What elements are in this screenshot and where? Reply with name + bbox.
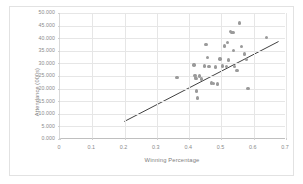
trendline-segment <box>124 42 278 122</box>
gridline-horizontal <box>60 126 285 127</box>
y-tick-mark <box>58 38 60 39</box>
x-tick-mark <box>189 138 190 140</box>
gridline-vertical <box>254 13 255 138</box>
gridline-horizontal <box>60 51 285 52</box>
data-point <box>214 65 217 68</box>
y-tick-mark <box>58 89 60 90</box>
gridline-horizontal <box>60 26 285 27</box>
y-tick-label: 5.000 <box>15 124 55 129</box>
y-tick-label: 20.000 <box>15 86 55 91</box>
gridline-horizontal <box>60 101 285 102</box>
data-point <box>227 58 230 61</box>
x-tick-label: 0 <box>44 145 74 150</box>
y-tick-mark <box>58 26 60 27</box>
gridline-vertical <box>125 13 126 138</box>
gridline-vertical <box>157 13 158 138</box>
data-point <box>238 21 241 24</box>
gridline-horizontal <box>60 38 285 39</box>
x-tick-label: 0.5 <box>205 145 235 150</box>
data-point <box>223 44 226 47</box>
gridline-horizontal <box>60 76 285 77</box>
x-tick-mark <box>60 138 61 140</box>
gridline-horizontal <box>60 114 285 115</box>
data-point <box>216 82 219 85</box>
gridline-vertical <box>189 13 190 138</box>
x-tick-mark <box>286 138 287 140</box>
gridline-horizontal <box>60 13 285 14</box>
data-point <box>221 64 224 67</box>
y-tick-mark <box>58 51 60 52</box>
data-point <box>235 69 238 72</box>
x-tick-label: 0.6 <box>238 145 268 150</box>
y-tick-mark <box>58 13 60 14</box>
plot-area <box>59 13 285 139</box>
gridline-horizontal <box>60 89 285 90</box>
gridline-horizontal <box>60 63 285 64</box>
y-tick-label: 10.000 <box>15 111 55 116</box>
y-tick-mark <box>58 63 60 64</box>
data-point <box>243 52 246 55</box>
y-tick-label: 45.000 <box>15 23 55 28</box>
y-tick-label: 40.000 <box>15 36 55 41</box>
x-tick-mark <box>125 138 126 140</box>
y-tick-label: 25.000 <box>15 73 55 78</box>
scatter-chart: Attendance (000s) Winning Percentage 0.0… <box>0 0 303 184</box>
data-point <box>246 87 249 90</box>
y-tick-label: 0.000 <box>15 136 55 141</box>
data-point <box>218 57 221 60</box>
y-tick-label: 30.000 <box>15 61 55 66</box>
x-tick-label: 0.2 <box>109 145 139 150</box>
data-point <box>240 45 243 48</box>
y-tick-mark <box>58 114 60 115</box>
x-tick-label: 0.1 <box>76 145 106 150</box>
x-tick-mark <box>254 138 255 140</box>
data-point <box>200 77 203 80</box>
data-point <box>207 65 210 68</box>
y-tick-mark <box>58 126 60 127</box>
data-point <box>195 89 198 92</box>
y-tick-label: 15.000 <box>15 99 55 104</box>
gridline-vertical <box>221 13 222 138</box>
gridline-vertical <box>286 13 287 138</box>
data-point <box>192 63 195 66</box>
x-tick-label: 0.4 <box>173 145 203 150</box>
y-tick-mark <box>58 101 60 102</box>
x-axis-title: Winning Percentage <box>59 157 285 163</box>
x-tick-mark <box>92 138 93 140</box>
y-tick-label: 35.000 <box>15 48 55 53</box>
data-point <box>204 43 207 46</box>
data-point <box>196 96 199 99</box>
gridline-vertical <box>92 13 93 138</box>
x-tick-label: 0.3 <box>141 145 171 150</box>
data-point <box>175 76 178 79</box>
x-tick-mark <box>221 138 222 140</box>
data-point <box>203 64 206 67</box>
y-tick-label: 50.000 <box>15 10 55 15</box>
x-tick-mark <box>157 138 158 140</box>
x-tick-label: 0.7 <box>270 145 300 150</box>
y-tick-mark <box>58 76 60 77</box>
